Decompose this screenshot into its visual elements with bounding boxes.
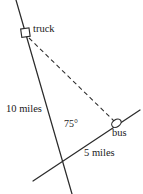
bus-label: bus (112, 128, 127, 139)
truck-marker-icon (21, 28, 30, 37)
diagram-canvas (0, 0, 143, 194)
geometry-diagram: truck bus 10 miles 5 miles 75° (0, 0, 143, 194)
bus-distance-label: 5 miles (84, 148, 115, 159)
bus-road-line (33, 110, 140, 181)
truck-label: truck (33, 24, 55, 35)
truck-distance-label: 10 miles (6, 104, 42, 115)
angle-label: 75° (64, 119, 78, 129)
